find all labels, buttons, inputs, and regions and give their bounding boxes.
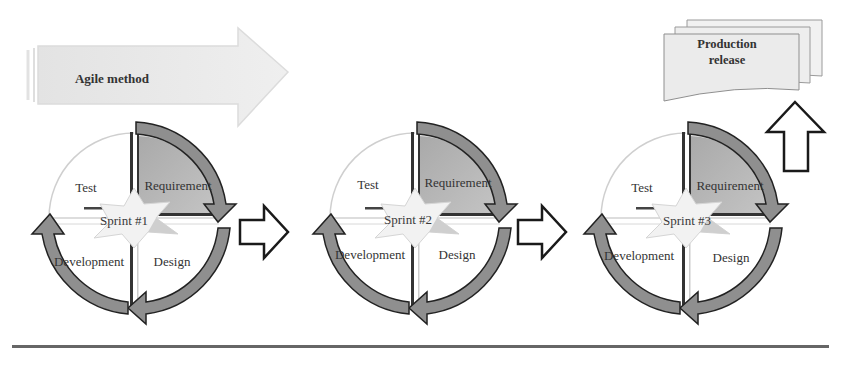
sprint-label: Sprint #2 xyxy=(384,212,432,228)
quadrant-requirement: Requirement xyxy=(696,178,763,194)
production-label-line2: release xyxy=(697,52,757,68)
quadrant-test: Test xyxy=(75,180,96,196)
quadrant-test: Test xyxy=(357,177,378,193)
production-label-line1: Production xyxy=(697,36,757,52)
agile-method-arrow xyxy=(28,28,288,126)
quadrant-development: Development xyxy=(335,247,405,263)
quadrant-development: Development xyxy=(54,254,124,270)
quadrant-design: Design xyxy=(713,250,750,266)
quadrant-requirement: Requirement xyxy=(144,178,211,194)
quadrant-design: Design xyxy=(439,247,476,263)
quadrant-development: Development xyxy=(604,248,674,264)
baseline-divider xyxy=(12,345,829,348)
quadrant-design: Design xyxy=(154,254,191,270)
next-sprint-arrow-icon xyxy=(240,206,288,258)
next-sprint-arrow-icon xyxy=(518,206,566,258)
sprint-label: Sprint #3 xyxy=(663,213,711,229)
sprint-label: Sprint #1 xyxy=(100,213,148,229)
quadrant-test: Test xyxy=(631,180,652,196)
quadrant-requirement: Requirement xyxy=(424,175,491,191)
agile-method-label: Agile method xyxy=(75,71,149,87)
up-arrow-icon xyxy=(767,102,824,171)
production-release-label: Production release xyxy=(697,36,757,68)
